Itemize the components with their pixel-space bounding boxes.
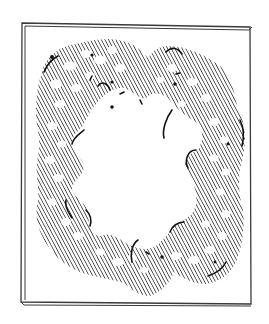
wreath-artwork bbox=[0, 0, 269, 324]
